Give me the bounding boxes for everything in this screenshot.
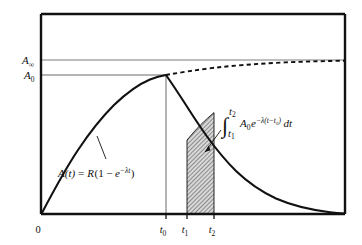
growth-equation-paren-close: ) <box>131 167 135 180</box>
figure-root: A∞ A0 0 t0 t1 t2 A(t)=R(1−e−λt) ∫ t2 t1 … <box>0 0 362 245</box>
growth-equation-exp-power: −λt <box>120 166 131 175</box>
y-label-a-zero-sub: 0 <box>31 75 35 84</box>
x-label-t0-sub: 0 <box>163 229 167 238</box>
activity-diagram-canvas: A∞ A0 0 t0 t1 t2 A(t)=R(1−e−λt) ∫ t2 t1 … <box>0 0 362 245</box>
growth-equation-one: 1 <box>98 167 104 179</box>
x-label-t2-sub: 2 <box>212 229 216 238</box>
x-label-t1-sub: 1 <box>185 229 189 238</box>
growth-equation-lhs: A(t) <box>57 167 75 180</box>
growth-equation-equals: = <box>78 167 84 179</box>
integral-lower-limit-sub: 1 <box>231 132 235 141</box>
growth-equation-rhs-leading: R <box>86 167 94 179</box>
integral-upper-limit-sub: 2 <box>232 110 236 119</box>
y-label-a-infinity-sub: ∞ <box>29 60 34 69</box>
x-label-origin: 0 <box>35 224 40 235</box>
integrand-exp-power: −λ(t−t₀) <box>256 116 282 125</box>
growth-equation-minus: − <box>106 167 112 179</box>
integrand-differential: dt <box>284 117 294 129</box>
